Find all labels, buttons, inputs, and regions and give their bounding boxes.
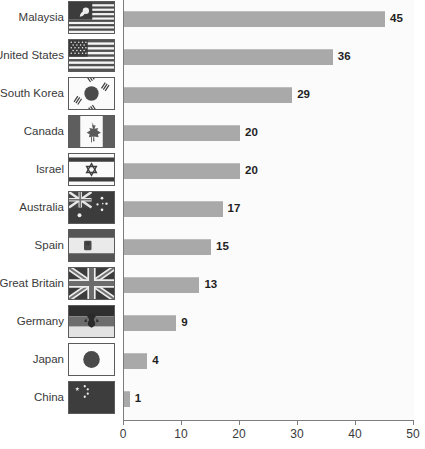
x-axis-tick-label: 0 — [120, 427, 127, 441]
flag-malaysia-icon — [68, 1, 115, 34]
bar-australia — [124, 201, 223, 217]
category-label-australia: Australia — [19, 201, 64, 213]
flag-canada-icon — [68, 115, 115, 148]
flag-great-britain-icon — [68, 267, 115, 300]
bar-germany — [124, 315, 176, 331]
bar-row: Great Britain 13 — [0, 267, 425, 305]
x-axis-line — [123, 420, 414, 421]
bar-row: China 1 — [0, 381, 425, 419]
bar-value-label: 13 — [204, 278, 217, 290]
bar-value-label: 1 — [135, 392, 141, 404]
category-label-malaysia: Malaysia — [19, 11, 64, 23]
flag-united-states-icon — [68, 39, 115, 72]
flag-israel-icon — [68, 153, 115, 186]
bar-row: United States 36 — [0, 39, 425, 77]
x-axis-tick-label: 20 — [232, 427, 245, 441]
flag-japan-icon — [68, 343, 115, 376]
x-axis-tick — [297, 420, 298, 425]
bar-value-label: 20 — [245, 164, 258, 176]
x-axis-tick-label: 50 — [406, 427, 419, 441]
category-label-south-korea: South Korea — [0, 87, 64, 99]
flag-australia-icon — [68, 191, 115, 224]
bar-value-label: 9 — [181, 316, 187, 328]
x-axis-tick — [413, 420, 414, 425]
bar-malaysia — [124, 11, 385, 27]
category-label-germany: Germany — [17, 315, 64, 327]
bar-row: Canada 20 — [0, 115, 425, 153]
category-label-japan: Japan — [33, 353, 64, 365]
bar-south-korea — [124, 87, 292, 103]
bar-israel — [124, 163, 240, 179]
x-axis-tick-label: 10 — [174, 427, 187, 441]
x-axis-tick-label: 30 — [290, 427, 303, 441]
category-label-china: China — [34, 391, 64, 403]
bar-value-label: 4 — [152, 354, 158, 366]
flag-germany-icon — [68, 305, 115, 338]
category-label-spain: Spain — [35, 239, 64, 251]
x-axis-tick — [123, 420, 124, 425]
bar-china — [124, 391, 130, 407]
bar-value-label: 17 — [228, 202, 241, 214]
bar-value-label: 20 — [245, 126, 258, 138]
bar-row: Israel 20 — [0, 153, 425, 191]
flag-spain-icon — [68, 229, 115, 262]
category-label-canada: Canada — [24, 125, 64, 137]
bar-united-states — [124, 49, 333, 65]
flag-china-icon — [68, 381, 115, 414]
bar-row: Australia 17 — [0, 191, 425, 229]
bar-great-britain — [124, 277, 199, 293]
category-label-israel: Israel — [36, 163, 64, 175]
bar-row: Malaysia 45 — [0, 1, 425, 39]
bar-row: Spain 15 — [0, 229, 425, 267]
bar-row: Germany 9 — [0, 305, 425, 343]
x-axis-tick — [239, 420, 240, 425]
bar-row: Japan 4 — [0, 343, 425, 381]
x-axis-tick — [355, 420, 356, 425]
bar-value-label: 15 — [216, 240, 229, 252]
flag-south-korea-icon — [68, 77, 115, 110]
bar-canada — [124, 125, 240, 141]
category-label-great-britain: Great Britain — [0, 277, 64, 289]
bar-value-label: 45 — [390, 12, 403, 24]
category-label-united-states: United States — [0, 49, 64, 61]
bar-spain — [124, 239, 211, 255]
bar-japan — [124, 353, 147, 369]
bar-value-label: 36 — [338, 50, 351, 62]
bar-row: South Korea 29 — [0, 77, 425, 115]
x-axis-tick-label: 40 — [348, 427, 361, 441]
x-axis-tick — [181, 420, 182, 425]
bar-chart: Malaysia 45United States 36South Korea — [0, 0, 425, 449]
bar-value-label: 29 — [297, 88, 310, 100]
